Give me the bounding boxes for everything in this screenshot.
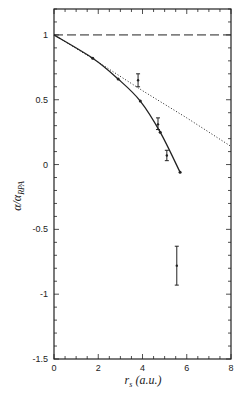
plot-frame — [54, 9, 231, 359]
curve-marker — [179, 171, 182, 174]
error-bar — [165, 150, 169, 160]
error-bar — [136, 74, 140, 87]
dotted-line — [54, 35, 231, 146]
y-axis-title-sub: RPA — [17, 181, 26, 196]
y-axis-ticks: 10.50-0.5-1-1.5 — [32, 9, 231, 364]
chart: 02468 10.50-0.5-1-1.5 rs (a.u.) α/αRPA — [0, 0, 242, 401]
y-tick-label: 1 — [43, 30, 48, 40]
x-tick-label: 4 — [140, 363, 145, 373]
y-tick-label: -0.5 — [32, 224, 48, 234]
x-axis-title: rs (a.u.) — [125, 373, 162, 389]
solid-line — [54, 35, 180, 172]
curve-marker — [159, 131, 162, 134]
plot-border — [54, 9, 231, 359]
x-axis-title-units: (a.u.) — [132, 373, 161, 387]
y-tick-label: -1.5 — [32, 354, 48, 364]
x-tick-label: 8 — [228, 363, 233, 373]
error-bar — [175, 246, 179, 285]
error-bar-point — [166, 154, 168, 156]
x-tick-label: 0 — [51, 363, 56, 373]
series-layer — [54, 35, 231, 285]
curve-marker — [139, 100, 142, 103]
x-tick-label: 6 — [184, 363, 189, 373]
y-axis-title: α/αRPA — [10, 181, 26, 211]
curve-marker — [117, 78, 120, 81]
error-bar-point — [176, 264, 178, 266]
y-tick-label: 0 — [43, 160, 48, 170]
y-tick-label: 0.5 — [35, 95, 48, 105]
x-axis-ticks: 02468 — [51, 9, 233, 373]
error-bar — [156, 118, 160, 130]
error-bar-point — [157, 123, 159, 125]
x-tick-label: 2 — [96, 363, 101, 373]
error-bar-point — [137, 79, 139, 81]
y-tick-label: -1 — [40, 289, 48, 299]
curve-marker — [91, 57, 94, 60]
y-axis-title-main: α/α — [10, 194, 24, 211]
